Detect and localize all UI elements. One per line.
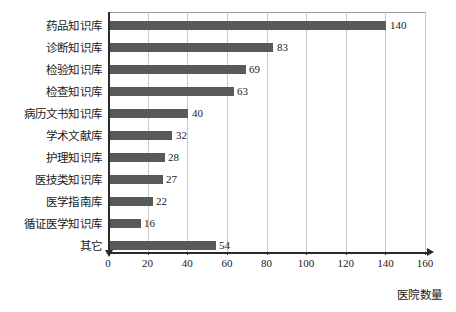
bar-value-label: 83 [277, 42, 288, 53]
bar-chart: 药品知识库 诊断知识库 检验知识库 检查知识库 病历文书知识库 学术文献库 护理… [0, 0, 456, 312]
x-axis-tick [187, 252, 188, 255]
x-axis-tick-label: 80 [261, 257, 272, 269]
category-label: 医学指南库 [46, 196, 102, 209]
category-label: 学术文献库 [46, 130, 102, 143]
x-axis-tick-label: 100 [298, 257, 315, 269]
x-axis-tick [227, 252, 228, 255]
x-axis-tick [306, 252, 307, 255]
bar-value-label: 28 [168, 152, 179, 163]
bar [109, 87, 234, 96]
category-label: 医技类知识库 [35, 174, 102, 187]
category-label: 诊断知识库 [46, 42, 102, 55]
bar [109, 153, 165, 162]
bar-value-label: 22 [156, 196, 167, 207]
bar-value-label: 54 [219, 240, 230, 251]
x-axis-tick [425, 252, 426, 255]
x-axis-tick [148, 252, 149, 255]
gridline [385, 12, 386, 252]
category-label: 病历文书知识库 [24, 108, 102, 121]
category-label: 检验知识库 [46, 64, 102, 77]
x-axis-tick [385, 252, 386, 255]
bar [109, 131, 172, 140]
bar-value-label: 32 [176, 130, 187, 141]
bar [109, 241, 216, 250]
gridline [306, 12, 307, 252]
x-axis-line [108, 252, 430, 254]
x-axis-tick-label: 40 [182, 257, 193, 269]
x-axis-tick-label: 120 [338, 257, 355, 269]
bar [109, 21, 386, 30]
bar [109, 109, 188, 118]
category-label: 循证医学知识库 [24, 218, 102, 231]
bar-value-label: 140 [390, 20, 407, 31]
x-axis-tick-label: 0 [105, 257, 111, 269]
x-axis-tick [267, 252, 268, 255]
x-axis-tick [346, 252, 347, 255]
x-axis-tick-label: 160 [417, 257, 434, 269]
category-axis-labels: 药品知识库 诊断知识库 检验知识库 检查知识库 病历文书知识库 学术文献库 护理… [0, 12, 106, 252]
bar [109, 197, 153, 206]
category-label: 护理知识库 [46, 152, 102, 165]
bar-value-label: 63 [237, 86, 248, 97]
bar [109, 175, 163, 184]
bar [109, 219, 141, 228]
category-label: 其它 [80, 240, 102, 253]
category-label: 检查知识库 [46, 86, 102, 99]
category-label: 药品知识库 [46, 20, 102, 33]
plot-area: 140 83 69 63 40 32 28 27 22 16 54 [108, 12, 426, 252]
gridline [346, 12, 347, 252]
bar-value-label: 16 [144, 218, 155, 229]
x-axis-tick-label: 20 [142, 257, 153, 269]
x-axis-tick [108, 252, 109, 255]
x-axis-tick-label: 60 [221, 257, 232, 269]
x-axis-tick-label: 140 [377, 257, 394, 269]
x-axis-arrow-icon [427, 248, 434, 256]
value-axis-line [108, 12, 110, 252]
gridline [425, 12, 426, 252]
bar [109, 43, 273, 52]
bar [109, 65, 246, 74]
bar-value-label: 69 [249, 64, 260, 75]
bar-value-label: 27 [166, 174, 177, 185]
x-axis-title: 医院数量 [397, 286, 442, 302]
bar-value-label: 40 [192, 108, 203, 119]
